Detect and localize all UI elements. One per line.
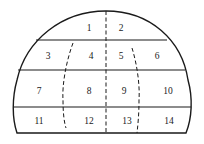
right-dashed-curve: [132, 48, 139, 133]
region-label-4: 4: [89, 51, 94, 61]
region-label-1: 1: [87, 23, 92, 33]
region-label-6: 6: [155, 51, 160, 61]
region-label-14: 14: [164, 116, 174, 126]
tunnel-outline: [13, 11, 191, 133]
region-labels: 1 2 3 4 5 6 7 8 9 10 11 12 13 14: [34, 23, 174, 126]
region-label-12: 12: [84, 116, 94, 126]
region-label-11: 11: [34, 116, 43, 126]
tunnel-section-diagram: 1 2 3 4 5 6 7 8 9 10 11 12 13 14: [0, 0, 204, 144]
region-label-10: 10: [163, 86, 173, 96]
region-label-9: 9: [122, 86, 127, 96]
region-label-5: 5: [119, 51, 124, 61]
region-label-3: 3: [46, 51, 51, 61]
region-label-13: 13: [122, 116, 132, 126]
region-label-2: 2: [119, 23, 124, 33]
diagram-canvas: 1 2 3 4 5 6 7 8 9 10 11 12 13 14: [0, 0, 204, 144]
region-label-8: 8: [87, 86, 92, 96]
region-label-7: 7: [37, 86, 42, 96]
left-dashed-curve: [63, 43, 73, 128]
